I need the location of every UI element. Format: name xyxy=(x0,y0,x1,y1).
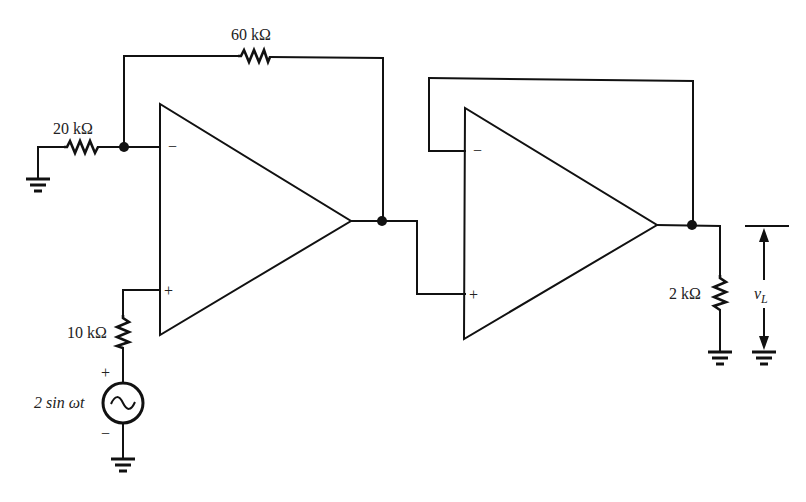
opamp2-icon xyxy=(464,108,657,339)
opamp1-noninverting-sign: + xyxy=(164,282,173,299)
output-voltage-label: vL xyxy=(754,285,768,306)
opamp1-icon xyxy=(160,104,351,335)
opamp1-inverting-sign: − xyxy=(168,138,177,155)
circuit-diagram: − + 20 kΩ 60 kΩ 10 kΩ + − 2 sin ωt xyxy=(0,0,806,502)
voltage-arrow-icon xyxy=(746,226,788,350)
r-input-label: 10 kΩ xyxy=(67,324,107,341)
ground-resistor-branch xyxy=(38,147,160,178)
feedback-loop-1 xyxy=(124,56,383,221)
opamp2-noninverting-sign: + xyxy=(469,286,478,303)
resistor-icon xyxy=(117,315,129,348)
resistor-icon xyxy=(64,141,98,153)
source-label: 2 sin ωt xyxy=(34,394,85,411)
source-minus-sign: − xyxy=(101,425,110,442)
opamp2-inverting-sign: − xyxy=(473,142,482,159)
ground-icon xyxy=(708,352,732,364)
ac-source-icon xyxy=(103,383,143,423)
r-load-label: 2 kΩ xyxy=(669,285,701,302)
schematic-svg: − + 20 kΩ 60 kΩ 10 kΩ + − 2 sin ωt xyxy=(0,0,806,502)
source-plus-sign: + xyxy=(101,364,110,381)
input-branch xyxy=(123,290,160,458)
ground-icon xyxy=(752,352,776,364)
output-voltage-subscript: L xyxy=(760,292,768,306)
r-feedback-label: 60 kΩ xyxy=(231,26,271,43)
feedback-loop-2 xyxy=(429,78,693,225)
resistor-icon xyxy=(714,275,726,310)
junction-dot-icon xyxy=(377,216,387,226)
junction-dot-icon xyxy=(119,142,129,152)
resistor-icon xyxy=(238,50,270,62)
ground-icon xyxy=(26,179,50,191)
ground-icon xyxy=(111,459,135,471)
interstage-wire xyxy=(351,221,465,294)
junction-dot-icon xyxy=(687,220,697,230)
r-ground-label: 20 kΩ xyxy=(53,120,93,137)
